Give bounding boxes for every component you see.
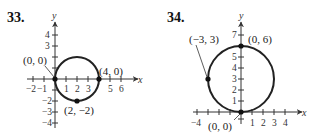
problem-number-34: 34. xyxy=(167,10,185,25)
y-tick-neg4: −4 xyxy=(42,118,52,128)
x-tick-2: 2 xyxy=(261,118,266,128)
label-point-4-0: (4, 0) xyxy=(99,65,123,78)
label-point-0-0: (0, 0) xyxy=(208,120,232,133)
x-tick-6: 6 xyxy=(119,84,124,94)
x-tick-4: 4 xyxy=(283,118,288,128)
x-tick-5: 5 xyxy=(108,84,113,94)
label-point-0-6: (0, 6) xyxy=(248,33,272,46)
x-axis-label: x xyxy=(137,74,143,85)
x-tick-neg2: −2 xyxy=(26,84,36,94)
y-tick-neg2: −2 xyxy=(42,96,52,106)
x-tick-1: 1 xyxy=(64,84,69,94)
point-4-0 xyxy=(96,76,101,81)
point-0-0 xyxy=(52,76,57,81)
y-tick-1: 1 xyxy=(232,96,237,106)
y-tick-neg3: −3 xyxy=(42,107,52,117)
point-0-6 xyxy=(238,43,243,48)
label-point-0-0: (0, 0) xyxy=(23,54,47,67)
figure-canvas: 33. x y 4 3 −2 xyxy=(0,0,310,138)
y-tick-4: 4 xyxy=(45,30,50,40)
y-tick-3: 3 xyxy=(232,74,237,84)
y-tick-5: 5 xyxy=(232,52,237,62)
problem-number-33: 33. xyxy=(7,10,25,25)
point-2-neg2 xyxy=(74,98,79,103)
graph-34: 34. x y 7 5 4 xyxy=(167,10,307,133)
y-tick-2: 2 xyxy=(232,85,237,95)
y-axis-label: y xyxy=(238,10,244,21)
label-point-neg3-3: (−3, 3) xyxy=(189,33,219,46)
x-tick-neg4: −4 xyxy=(191,118,201,128)
label-point-2-neg2: (2, −2) xyxy=(64,104,94,117)
point-0-0 xyxy=(238,109,243,114)
x-axis-label: x xyxy=(301,107,307,118)
x-tick-1: 1 xyxy=(250,118,255,128)
x-tick-3: 3 xyxy=(86,84,91,94)
x-tick-3: 3 xyxy=(272,118,277,128)
y-axis-label: y xyxy=(51,10,57,21)
x-tick-2: 2 xyxy=(75,84,80,94)
graph-33: 33. x y 4 3 −2 xyxy=(7,10,143,128)
y-tick-7: 7 xyxy=(232,30,237,40)
y-tick-3: 3 xyxy=(45,41,50,51)
y-tick-4: 4 xyxy=(232,63,237,73)
leader-line xyxy=(196,45,207,77)
point-neg3-3 xyxy=(205,76,210,81)
x-tick-neg1: −1 xyxy=(37,84,47,94)
